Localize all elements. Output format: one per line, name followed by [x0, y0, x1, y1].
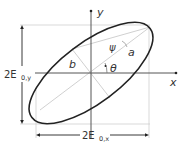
arrow-down-icon — [20, 120, 24, 124]
height-dimension-label: 2E — [4, 69, 17, 80]
x-axis-arrow-icon — [175, 72, 178, 75]
width-dimension-label: 2E — [82, 130, 95, 141]
theta-label: θ — [110, 62, 117, 75]
construction-lines — [40, 27, 150, 110]
semi-major-label: a — [128, 46, 135, 59]
theta-arrow-icon — [105, 65, 107, 67]
y-axis-label: y — [96, 6, 104, 19]
width-dimension-subscript: 0,x — [99, 135, 109, 143]
x-axis-label: x — [169, 76, 177, 89]
y-axis-arrow-icon — [90, 10, 93, 13]
arrow-right-icon — [145, 133, 149, 137]
height-dimension-subscript: 0,y — [21, 74, 31, 82]
psi-label: ψ — [109, 42, 116, 53]
arrow-left-icon — [36, 133, 40, 137]
theta-angle-arc — [105, 63, 107, 73]
arrow-up-icon — [20, 25, 24, 29]
polarization-ellipse-diagram: y x a b ψ θ 2E 0,y 2E 0,x — [0, 0, 185, 150]
semi-minor-label: b — [69, 58, 76, 71]
